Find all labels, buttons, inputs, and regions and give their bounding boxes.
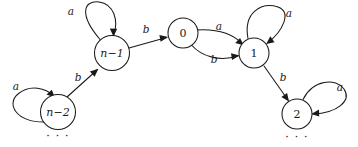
edge-label-zero-to-one-a: a xyxy=(216,20,222,32)
edge-label-one-self: a xyxy=(286,7,292,19)
node-one[interactable]: 1 xyxy=(239,38,269,68)
edge-label-one-to-two: b xyxy=(280,71,287,83)
edge-labels-layer: a b a b a a b b a xyxy=(13,5,343,93)
node-n-minus-2[interactable]: n−2 xyxy=(41,95,76,130)
edge-path xyxy=(247,6,285,43)
edge-label-two-self: a xyxy=(337,81,343,93)
edge-label-zero-to-one-b: b xyxy=(211,53,218,65)
edge-path xyxy=(86,2,116,40)
edge-n-minus-1-to-zero[interactable] xyxy=(129,35,168,48)
node-zero[interactable]: 0 xyxy=(168,18,198,48)
node-label: 0 xyxy=(180,27,187,40)
arrow-head xyxy=(281,93,289,102)
arrow-head xyxy=(159,35,168,42)
edge-n-minus-1-self-loop[interactable] xyxy=(86,2,118,40)
arrow-head xyxy=(231,53,240,60)
ellipsis-left: · · · xyxy=(46,130,69,143)
edge-label-n-minus-2-to-n-minus-1: b xyxy=(75,71,82,83)
edge-label-n-minus-2-self: a xyxy=(13,80,19,92)
node-two[interactable]: 2 xyxy=(282,99,312,129)
automaton-figure: n−1 0 1 n−2 2 a b a b xyxy=(0,0,358,147)
edge-zero-to-one-a[interactable] xyxy=(197,30,244,45)
node-label: n−1 xyxy=(100,47,123,60)
state-diagram-canvas: n−1 0 1 n−2 2 a b a b xyxy=(0,0,358,147)
ellipsis-layer: · · · · · · xyxy=(46,130,308,144)
edge-n-minus-2-to-n-minus-1[interactable] xyxy=(67,69,98,97)
node-label: 2 xyxy=(294,108,301,121)
node-n-minus-1[interactable]: n−1 xyxy=(95,36,130,71)
node-label: n−2 xyxy=(46,106,69,119)
node-label: 1 xyxy=(251,47,258,60)
edge-label-n-minus-1-to-zero: b xyxy=(143,23,150,35)
edge-label-n-minus-1-self: a xyxy=(68,5,74,17)
ellipsis-right: · · · xyxy=(285,131,308,144)
